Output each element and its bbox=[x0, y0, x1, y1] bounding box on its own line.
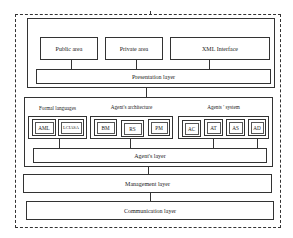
xml-interface-module: XML Interface bbox=[170, 37, 270, 60]
connector-formal bbox=[59, 139, 60, 148]
presentation-layer: Presentation layer bbox=[36, 69, 271, 84]
rs-label: RS bbox=[129, 126, 135, 132]
as-box: AS bbox=[226, 119, 245, 136]
connector-system-at bbox=[213, 139, 214, 148]
connector-private bbox=[136, 60, 137, 69]
at-box: AT bbox=[204, 119, 223, 136]
bm-label: BM bbox=[101, 125, 109, 131]
lciasa-label: LCIASA bbox=[63, 125, 79, 130]
connector-architecture bbox=[130, 139, 131, 148]
lciasa-box: LCIASA bbox=[58, 119, 84, 136]
connector-presentation-agent bbox=[146, 88, 147, 97]
private-area-label: Private area bbox=[120, 46, 148, 52]
connector-agent-management bbox=[148, 167, 149, 174]
private-area-module: Private area bbox=[105, 37, 163, 60]
agents-layer-label: Agent's layer bbox=[134, 153, 166, 159]
connector-management-communication bbox=[150, 193, 151, 201]
formal-languages-title: Formal languages bbox=[28, 105, 87, 111]
boundary-top-tick bbox=[150, 11, 151, 15]
agents-system-title: Agents ' system bbox=[178, 104, 269, 110]
xml-interface-label: XML Interface bbox=[202, 46, 238, 52]
connector-xml bbox=[209, 60, 210, 69]
pm-box: PM bbox=[148, 119, 170, 136]
connector-public bbox=[71, 60, 72, 69]
public-area-label: Public area bbox=[56, 46, 83, 52]
ad-box: AD bbox=[248, 119, 266, 136]
bm-box: BM bbox=[94, 119, 117, 136]
rs-box: RS bbox=[121, 120, 144, 137]
aml-label: AML bbox=[38, 125, 50, 131]
ad-label: AD bbox=[253, 125, 261, 131]
public-area-module: Public area bbox=[40, 37, 98, 60]
connector-system-ad bbox=[257, 139, 258, 148]
management-layer-label: Management layer bbox=[125, 181, 170, 187]
ac-box: AC bbox=[182, 120, 201, 137]
as-label: AS bbox=[232, 125, 239, 131]
management-layer: Management layer bbox=[23, 174, 272, 193]
presentation-layer-label: Presentation layer bbox=[132, 74, 175, 80]
aml-box: AML bbox=[32, 119, 56, 136]
agents-layer: Agent's layer bbox=[33, 148, 267, 163]
agents-architecture-title: Agent's architecture bbox=[90, 104, 173, 110]
at-label: AT bbox=[210, 125, 216, 131]
communication-layer-label: Communication layer bbox=[124, 208, 176, 214]
communication-layer: Communication layer bbox=[26, 201, 274, 220]
pm-label: PM bbox=[155, 125, 163, 131]
ac-label: AC bbox=[188, 126, 195, 132]
